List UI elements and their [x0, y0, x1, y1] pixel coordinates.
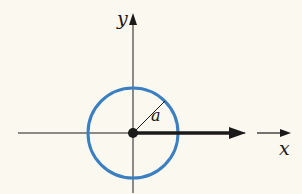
thick-x-arrow-head-icon [229, 127, 246, 139]
x-direction-arrow-head-icon [280, 129, 291, 137]
origin-point [128, 128, 138, 138]
radius-label: a [151, 108, 161, 124]
x-axis-label: x [279, 139, 290, 158]
y-axis-label: y [117, 9, 128, 28]
diagram-canvas: y x a [0, 0, 302, 194]
y-axis-arrow-icon [129, 13, 137, 25]
diagram-svg [0, 0, 302, 194]
